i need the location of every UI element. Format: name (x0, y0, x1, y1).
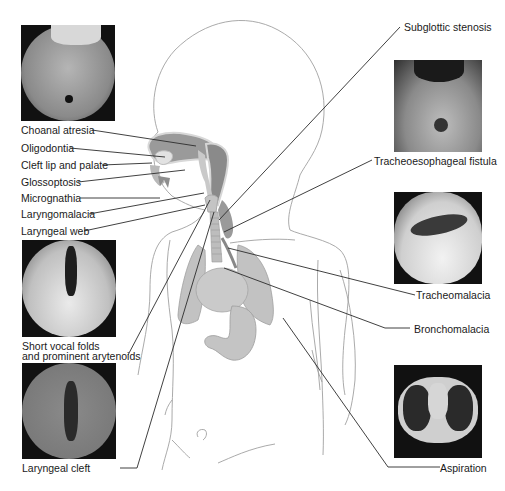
label-tracheoesophageal-fistula: Tracheoesophageal fistula (374, 155, 497, 167)
label-micrognathia: Micrognathia (21, 192, 81, 204)
label-laryngeal-cleft: Laryngeal cleft (22, 462, 90, 474)
photo-tracheomalacia (394, 192, 482, 284)
lumen-shape (414, 60, 464, 82)
cleft-shape (64, 381, 78, 441)
photo-laryngeal-cleft (22, 363, 116, 459)
label-laryngomalacia: Laryngomalacia (21, 208, 95, 220)
label-laryngeal-web: Laryngeal web (21, 225, 89, 237)
label-cleft-lip-palate: Cleft lip and palate (21, 159, 108, 171)
label-short-vocal-folds-line2: and prominent arytenoids (22, 350, 141, 362)
label-tracheomalacia: Tracheomalacia (416, 289, 490, 301)
atresia-opening (65, 95, 73, 103)
label-glossoptosis: Glossoptosis (21, 176, 81, 188)
label-bronchomalacia: Bronchomalacia (414, 323, 489, 335)
photo-tracheoesophageal-fistula (394, 60, 482, 152)
body-outline (138, 20, 355, 470)
leader-lines (70, 27, 440, 468)
mediastinum (428, 383, 448, 419)
right-lung (403, 385, 431, 431)
label-oligodontia: Oligodontia (21, 142, 74, 154)
turbinate-shape (51, 25, 101, 45)
photo-short-vocal-folds (22, 240, 116, 337)
label-choanal-atresia: Choanal atresia (21, 124, 95, 136)
photo-aspiration-ct (394, 365, 482, 458)
nasal-oral-cavity (148, 133, 233, 239)
heart (196, 268, 248, 312)
left-lung (445, 385, 473, 431)
stomach (205, 306, 256, 360)
fistula-opening (434, 118, 448, 132)
photo-choanal-atresia (21, 25, 115, 121)
label-aspiration: Aspiration (440, 462, 487, 474)
label-subglottic-stenosis: Subglottic stenosis (404, 21, 492, 33)
glottis-shape (65, 246, 77, 296)
